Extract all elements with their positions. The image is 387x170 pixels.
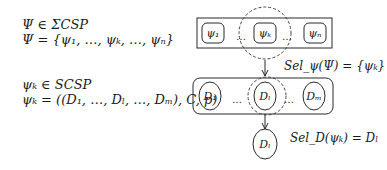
selection-2-label: Sel_D(ψₖ) = Dₗ (290, 131, 378, 145)
result-node-label: Dₗ (258, 138, 271, 151)
psi-set-definition: Ψ = {ψ₁, …, ψₖ, …, ψₙ} (22, 32, 174, 47)
ellipsis-4: … (284, 94, 294, 105)
node-psi-n-label: ψₙ (308, 27, 321, 40)
node-psi-1-label: ψ₁ (206, 27, 219, 40)
node-d-l-label: Dₗ (258, 90, 271, 103)
node-d-1-label: D₁ (202, 90, 216, 103)
node-psi-k-label: ψₖ (259, 27, 272, 40)
selection-1-label: Sel_ψ(Ψ) = {ψₖ} (284, 59, 385, 73)
psi-in-sigma-csp: Ψ ∈ ΣCSP (22, 17, 88, 32)
psik-in-scsp: ψₖ ∈ SCSP (22, 77, 92, 92)
psik-definition: ψₖ = ((D₁, …, Dₗ, …, Dₘ), C, p) (22, 92, 217, 107)
ellipsis-1: … (236, 31, 246, 42)
ellipsis-3: … (232, 94, 242, 105)
node-d-m-label: Dₘ (305, 90, 322, 103)
csp-selection-diagram: Ψ ∈ ΣCSP Ψ = {ψ₁, …, ψₖ, …, ψₙ} ψₖ ∈ SCS… (0, 0, 387, 170)
